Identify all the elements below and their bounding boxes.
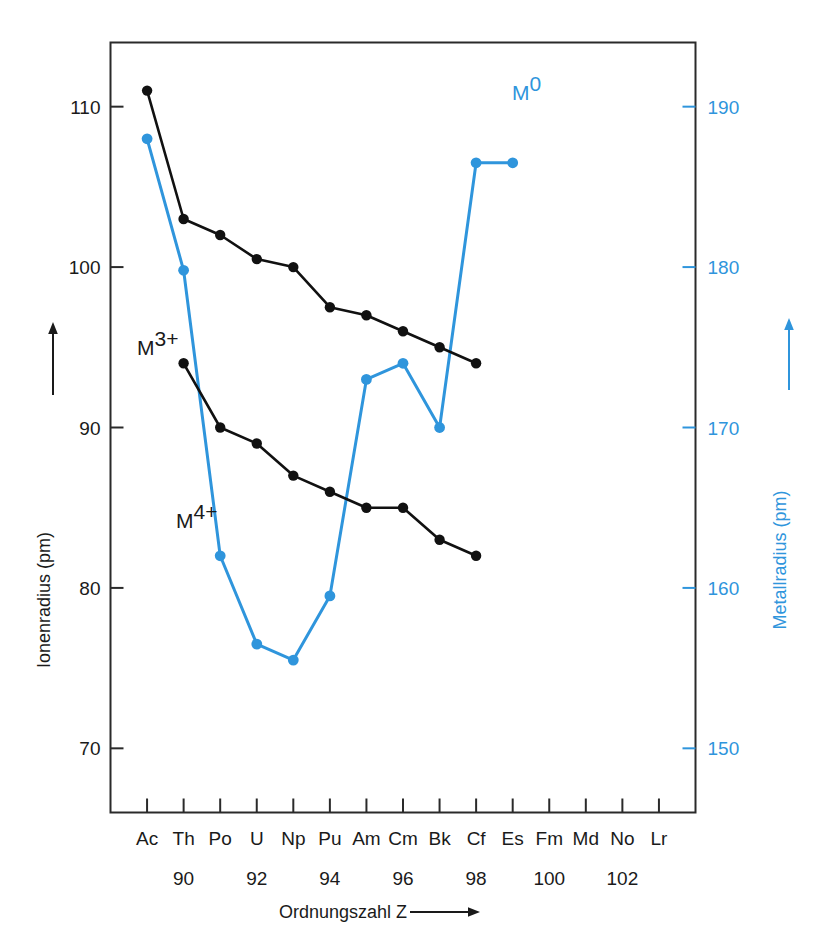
data-point-m3+-cf: [471, 358, 481, 368]
data-point-m3+-ac: [142, 85, 152, 95]
x-tick-label-po: Po: [209, 828, 232, 849]
x-tick-label-u: U: [250, 828, 264, 849]
chart-background: [0, 0, 829, 946]
data-point-m0-es: [507, 157, 518, 168]
x-atomic-number-102: 102: [607, 868, 639, 889]
x-atomic-number-98: 98: [466, 868, 487, 889]
data-point-m0-bk: [434, 422, 445, 433]
data-point-m3+-am: [361, 310, 371, 320]
x-tick-label-cm: Cm: [388, 828, 418, 849]
x-axis-category-labels: AcThPoUNpPuAmCmBkCfEsFmMdNoLr: [136, 828, 668, 849]
x-atomic-number-96: 96: [392, 868, 413, 889]
data-point-m4+-po: [215, 422, 225, 432]
data-point-m4+-cm: [398, 503, 408, 513]
data-point-m3+-pu: [325, 302, 335, 312]
x-atomic-number-94: 94: [319, 868, 341, 889]
data-point-m4+-pu: [325, 487, 335, 497]
left-tick-label: 70: [79, 738, 100, 759]
right-tick-label: 180: [708, 257, 740, 278]
right-axis-title: Metallradius (pm): [770, 490, 790, 629]
x-tick-label-md: Md: [573, 828, 599, 849]
right-tick-label: 160: [708, 578, 740, 599]
x-tick-label-lr: Lr: [650, 828, 668, 849]
series-label-superscript: 3+: [155, 327, 179, 350]
left-tick-label: 110: [70, 97, 100, 118]
right-tick-label: 150: [708, 738, 740, 759]
x-tick-label-es: Es: [502, 828, 524, 849]
data-point-m3+-th: [178, 214, 188, 224]
right-tick-label: 190: [708, 97, 740, 118]
series-label-superscript: 0: [530, 72, 542, 95]
x-tick-label-np: Np: [281, 828, 305, 849]
data-point-m3+-bk: [434, 342, 444, 352]
data-point-m4+-bk: [434, 535, 444, 545]
data-point-m3+-po: [215, 230, 225, 240]
x-tick-label-cf: Cf: [467, 828, 487, 849]
data-point-m0-cm: [398, 358, 409, 369]
data-point-m0-np: [288, 655, 299, 666]
right-tick-label: 170: [708, 418, 740, 439]
data-point-m4+-th: [178, 358, 188, 368]
x-tick-label-ac: Ac: [136, 828, 158, 849]
data-point-m4+-np: [288, 470, 298, 480]
data-point-m4+-cf: [471, 551, 481, 561]
data-point-m0-th: [178, 265, 189, 276]
x-tick-label-th: Th: [173, 828, 195, 849]
data-point-m3+-np: [288, 262, 298, 272]
data-point-m3+-u: [252, 254, 262, 264]
left-tick-label: 100: [69, 257, 101, 278]
data-point-m0-ac: [142, 133, 153, 144]
data-point-m4+-u: [252, 438, 262, 448]
x-tick-label-no: No: [610, 828, 634, 849]
data-point-m3+-cm: [398, 326, 408, 336]
left-tick-label: 90: [79, 418, 100, 439]
data-point-m0-am: [361, 374, 372, 385]
data-point-m0-cf: [471, 157, 482, 168]
data-point-m0-po: [215, 550, 226, 561]
x-tick-label-fm: Fm: [536, 828, 563, 849]
x-tick-label-am: Am: [352, 828, 381, 849]
x-axis-title: Ordnungszahl Z: [279, 902, 407, 922]
x-atomic-number-90: 90: [173, 868, 194, 889]
data-point-m0-u: [251, 639, 262, 650]
left-tick-label: 80: [79, 578, 100, 599]
series-label-superscript: 4+: [194, 500, 218, 523]
x-tick-label-bk: Bk: [428, 828, 451, 849]
left-axis-title: Ionenradius (pm): [34, 532, 54, 668]
data-point-m0-pu: [325, 591, 336, 602]
radii-line-chart: 110100908070 190180170160150 AcThPoUNpPu…: [0, 0, 829, 946]
chart-canvas: 110100908070 190180170160150 AcThPoUNpPu…: [0, 0, 829, 946]
data-point-m4+-am: [361, 503, 371, 513]
x-atomic-number-92: 92: [246, 868, 267, 889]
x-tick-label-pu: Pu: [318, 828, 341, 849]
x-atomic-number-100: 100: [533, 868, 565, 889]
